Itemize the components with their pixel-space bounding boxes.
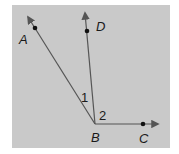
ray-ba [28, 17, 95, 124]
label-c: C [139, 131, 149, 146]
label-angle-1: 1 [81, 90, 88, 105]
label-a: A [18, 32, 28, 47]
point-a [33, 26, 38, 31]
point-d [85, 29, 90, 34]
label-angle-2: 2 [99, 108, 106, 123]
label-b: B [91, 130, 100, 145]
angle-diagram: A D 1 2 B C [0, 0, 179, 154]
point-c [141, 122, 146, 127]
label-d: D [96, 19, 105, 34]
